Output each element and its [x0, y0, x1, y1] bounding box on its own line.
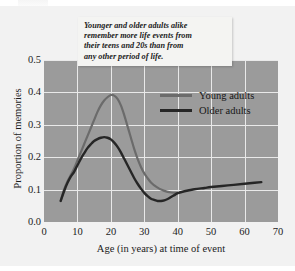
legend-item-young-adults: Young adults: [160, 88, 272, 103]
y-tick-label: 0.2: [1, 152, 41, 162]
annotation-line: remember more life events from: [84, 31, 227, 41]
y-axis-ticks: 0.5 0.4 0.3 0.2 0.1 0.0: [0, 60, 41, 222]
series-line-older-adults: [61, 137, 262, 201]
chart-legend: Young adults Older adults: [160, 88, 272, 118]
x-tick-label: 30: [131, 226, 157, 237]
x-tick-label: 20: [98, 226, 124, 237]
annotation-callout: Younger and older adults alike remember …: [78, 17, 232, 66]
x-axis-ticks: 0 10 20 30 40 50 60 70: [44, 226, 278, 240]
y-tick-label: 0.1: [1, 185, 41, 195]
plot-area: [44, 60, 278, 222]
legend-label: Older adults: [199, 105, 251, 116]
x-tick-label: 0: [31, 226, 57, 237]
y-tick-label: 0.3: [1, 120, 41, 130]
annotation-line: their teens and 20s than from: [84, 41, 227, 51]
x-tick-label: 50: [198, 226, 224, 237]
legend-label: Young adults: [199, 90, 254, 101]
x-tick-label: 70: [265, 226, 291, 237]
legend-color-swatch: [160, 94, 192, 97]
x-tick-label: 40: [165, 226, 191, 237]
annotation-line: any other period of life.: [84, 52, 227, 62]
y-tick-label: 0.4: [1, 87, 41, 97]
chart-figure: Proportion of memories 0.5 0.4 0.3 0.2 0…: [0, 0, 295, 271]
legend-item-older-adults: Older adults: [160, 103, 272, 118]
x-tick-label: 60: [232, 226, 258, 237]
annotation-line: Younger and older adults alike: [84, 21, 227, 31]
x-axis-label: Age (in years) at time of event: [44, 243, 278, 254]
x-tick-label: 10: [64, 226, 90, 237]
data-curves: [44, 60, 278, 222]
legend-color-swatch: [160, 109, 192, 112]
y-tick-label: 0.5: [1, 55, 41, 65]
